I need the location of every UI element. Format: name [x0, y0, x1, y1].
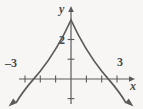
- x-tick-label-3: 3: [117, 56, 123, 68]
- curve-left-arrowhead: [9, 99, 17, 107]
- x-axis-label: x: [130, 80, 136, 92]
- y-axis-arrowhead: [68, 6, 74, 12]
- curve-right-arrowhead: [125, 99, 133, 107]
- y-axis-label: y: [59, 3, 64, 15]
- parabola-figure: y x 2 –3 3: [0, 0, 143, 109]
- x-tick-label-negative-3: –3: [5, 57, 17, 69]
- y-tick-label-2: 2: [59, 34, 65, 46]
